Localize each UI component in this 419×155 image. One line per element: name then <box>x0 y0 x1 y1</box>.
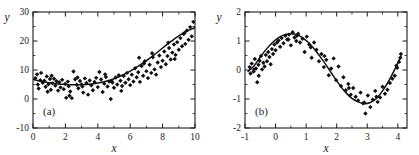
data-point <box>115 82 119 86</box>
y-axis-label: y <box>215 11 222 24</box>
data-point <box>105 84 109 88</box>
data-point <box>97 70 101 74</box>
data-point <box>383 92 387 96</box>
data-point <box>327 73 331 77</box>
y-tick-label: -10 <box>16 123 29 133</box>
data-point <box>146 76 150 80</box>
data-point <box>260 67 264 71</box>
data-point <box>165 54 169 58</box>
y-tick-label: -2 <box>233 123 241 133</box>
data-point <box>278 45 282 49</box>
data-point <box>289 43 293 47</box>
x-tick-label: -1 <box>241 132 249 142</box>
data-point <box>180 44 184 48</box>
data-point <box>175 40 179 44</box>
fit-curve <box>248 34 401 104</box>
data-point <box>94 76 98 80</box>
data-point <box>375 100 379 104</box>
panel-label: (b) <box>255 105 268 118</box>
figure-container: 0246810-100102030xy(a)-101234-2-1012xy(b… <box>0 0 419 155</box>
data-point <box>36 86 40 90</box>
data-point <box>262 64 266 68</box>
data-point <box>154 72 158 76</box>
data-point <box>273 48 277 52</box>
data-point <box>99 77 103 81</box>
data-point <box>172 42 176 46</box>
data-point <box>167 46 171 50</box>
data-point <box>134 75 138 79</box>
data-point <box>366 93 370 97</box>
data-point <box>183 42 187 46</box>
data-point <box>317 59 321 63</box>
panel-a: 0246810-100102030xy(a) <box>3 7 200 154</box>
data-point <box>170 50 174 54</box>
data-point <box>346 82 350 86</box>
data-point <box>324 58 328 62</box>
two-panel-scatter-figure: 0246810-100102030xy(a)-101234-2-1012xy(b… <box>0 0 419 155</box>
data-point <box>112 85 116 89</box>
scatter-points <box>247 30 403 116</box>
data-point <box>265 59 269 63</box>
data-point <box>256 63 260 67</box>
data-point <box>68 89 72 93</box>
data-point <box>294 39 298 43</box>
fit-curve <box>33 28 195 85</box>
data-point <box>128 83 132 87</box>
data-point <box>281 41 285 45</box>
data-point <box>312 40 316 44</box>
data-point <box>336 64 340 68</box>
data-point <box>250 61 254 65</box>
data-point <box>71 69 75 73</box>
data-point <box>141 74 145 78</box>
x-tick-label: 4 <box>395 132 400 142</box>
data-point <box>159 65 163 69</box>
plot-frame <box>245 12 407 128</box>
data-point <box>138 80 142 84</box>
data-point <box>130 72 134 76</box>
data-point <box>86 92 90 96</box>
data-point <box>257 74 261 78</box>
data-point <box>358 90 362 94</box>
y-tick-label: 1 <box>236 36 241 46</box>
data-point <box>331 56 335 60</box>
y-tick-label: 10 <box>20 65 30 75</box>
data-point <box>35 72 39 76</box>
data-point <box>266 50 270 54</box>
data-point <box>298 40 302 44</box>
data-point <box>147 63 151 67</box>
data-point <box>169 57 173 61</box>
x-tick-label: 0 <box>273 132 278 142</box>
data-point <box>190 34 194 38</box>
data-point <box>385 88 389 92</box>
data-point <box>83 76 87 80</box>
data-point <box>88 78 92 82</box>
data-point <box>305 34 309 38</box>
data-point <box>271 52 275 56</box>
data-point <box>177 48 181 52</box>
data-layer <box>247 30 403 116</box>
data-point <box>173 53 177 57</box>
data-point <box>309 56 313 60</box>
data-point <box>43 85 47 89</box>
data-point <box>347 86 351 90</box>
x-tick-label: 0 <box>31 132 36 142</box>
y-tick-label: 2 <box>236 7 241 17</box>
data-point <box>341 75 345 79</box>
data-point <box>81 90 85 94</box>
x-axis-label: x <box>322 142 329 154</box>
data-point <box>144 69 148 73</box>
data-point <box>123 81 127 85</box>
y-tick-label: 0 <box>24 94 29 104</box>
data-point <box>109 97 113 101</box>
x-axis-label: x <box>110 142 117 154</box>
y-tick-label: -1 <box>233 94 241 104</box>
data-point <box>120 84 124 88</box>
data-point <box>270 47 274 51</box>
data-point <box>164 62 168 66</box>
data-point <box>322 65 326 69</box>
x-tick-label: 8 <box>160 132 165 142</box>
x-tick-label: 2 <box>334 132 339 142</box>
data-point <box>267 55 271 59</box>
scatter-points <box>33 20 195 102</box>
data-point <box>264 53 268 57</box>
